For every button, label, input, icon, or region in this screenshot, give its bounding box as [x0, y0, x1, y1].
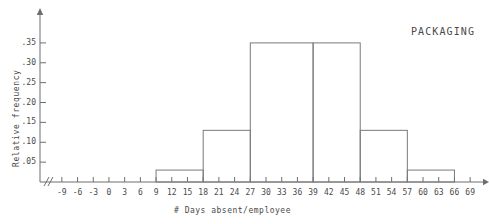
tick-marks [40, 43, 470, 182]
axes [37, 8, 489, 186]
histogram-bar [203, 130, 250, 182]
histogram-bars [156, 43, 454, 182]
y-tick-label: .25 [8, 78, 36, 87]
histogram-bar [156, 170, 203, 182]
histogram-bar [407, 170, 454, 182]
y-axis-arrow [37, 8, 43, 15]
x-tick-label: 69 [459, 188, 481, 197]
y-tick-label: .30 [8, 58, 36, 67]
y-tick-label: .20 [8, 98, 36, 107]
histogram-bar [313, 43, 360, 182]
histogram-figure: PACKAGING Relative frequency # Days abse… [0, 0, 489, 224]
y-tick-label: .35 [8, 38, 36, 47]
histogram-bar [360, 130, 407, 182]
y-tick-label: .05 [8, 157, 36, 166]
y-tick-label: .10 [8, 137, 36, 146]
x-axis-arrow [483, 179, 489, 185]
histogram-bar [250, 43, 313, 182]
y-tick-label: .15 [8, 117, 36, 126]
